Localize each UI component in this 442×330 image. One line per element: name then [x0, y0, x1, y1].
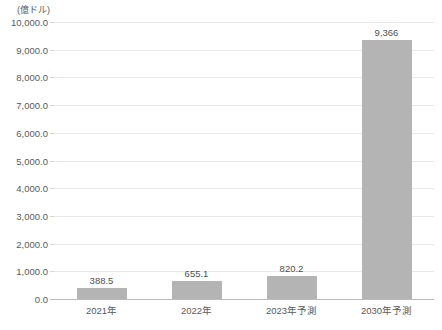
y-tick-label: 4,000.0 [16, 183, 48, 194]
y-tick-mark [50, 50, 54, 51]
y-tick-mark [50, 271, 54, 272]
y-tick-mark [50, 188, 54, 189]
y-tick-mark [50, 299, 54, 300]
bar-value-label: 655.1 [185, 268, 209, 279]
y-tick-label: 1,000.0 [16, 266, 48, 277]
bar [267, 276, 317, 299]
bar-value-label: 388.5 [90, 275, 114, 286]
category-label: 2021年 [54, 303, 149, 317]
y-tick-label: 5,000.0 [16, 155, 48, 166]
y-tick-label: 8,000.0 [16, 72, 48, 83]
plot-area: 10,000.09,000.08,000.07,000.06,000.05,00… [54, 22, 434, 299]
y-tick-mark [50, 77, 54, 78]
bar-value-label: 9,366 [375, 27, 399, 38]
bar-group: 388.5 [77, 22, 127, 299]
bar-group: 820.2 [267, 22, 317, 299]
bar [172, 281, 222, 299]
y-tick-label: 0.0 [35, 294, 48, 305]
y-tick-label: 7,000.0 [16, 100, 48, 111]
category-label: 2030年予測 [339, 303, 434, 317]
bar-group: 655.1 [172, 22, 222, 299]
y-tick-label: 6,000.0 [16, 127, 48, 138]
bar-chart: (億ドル) 10,000.09,000.08,000.07,000.06,000… [0, 0, 442, 330]
bar [362, 40, 412, 299]
bar [77, 288, 127, 299]
y-tick-mark [50, 161, 54, 162]
y-tick-label: 10,000.0 [11, 17, 48, 28]
y-tick-label: 2,000.0 [16, 238, 48, 249]
bar-value-label: 820.2 [280, 263, 304, 274]
axis-baseline [54, 299, 434, 300]
y-tick-label: 9,000.0 [16, 44, 48, 55]
y-tick-mark [50, 244, 54, 245]
y-tick-mark [50, 133, 54, 134]
y-tick-mark [50, 216, 54, 217]
category-label: 2022年 [149, 303, 244, 317]
bar-group: 9,366 [362, 22, 412, 299]
y-tick-mark [50, 105, 54, 106]
category-label: 2023年予測 [244, 303, 339, 317]
x-axis-category-labels: 2021年2022年2023年予測2030年予測 [54, 303, 434, 323]
y-tick-mark [50, 22, 54, 23]
y-tick-label: 3,000.0 [16, 210, 48, 221]
axis-unit-label: (億ドル) [17, 3, 50, 16]
